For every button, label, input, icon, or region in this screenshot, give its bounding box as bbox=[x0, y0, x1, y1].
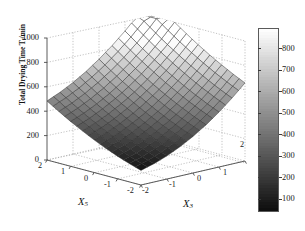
colorbar-mark-left-800 bbox=[258, 48, 261, 49]
x3-tick-neg2: -2 bbox=[142, 186, 149, 195]
colorbar-mark-200 bbox=[279, 177, 282, 178]
colorbar-tick-700: 700 bbox=[282, 65, 295, 74]
x3-tick-2: 2 bbox=[240, 140, 244, 149]
colorbar-mark-600 bbox=[279, 91, 282, 92]
x3-tick-neg1: -1 bbox=[169, 180, 176, 189]
x5-axis-name-sub: 5 bbox=[84, 200, 88, 208]
z-tick-600: 600 bbox=[13, 82, 39, 91]
colorbar-mark-800 bbox=[279, 48, 282, 49]
z-tick-400: 400 bbox=[13, 107, 39, 116]
x3-tick-0: 0 bbox=[197, 174, 201, 183]
colorbar-mark-100 bbox=[279, 199, 282, 200]
colorbar-mark-700 bbox=[279, 70, 282, 71]
z-tick-800: 800 bbox=[13, 58, 39, 67]
response-surface-mesh bbox=[47, 14, 245, 170]
colorbar-mark-left-400 bbox=[258, 134, 261, 135]
x5-tick-neg2: -2 bbox=[127, 186, 134, 195]
colorbar-mark-500 bbox=[279, 113, 282, 114]
z-tick-1000: 1000 bbox=[13, 33, 39, 42]
colorbar-tick-600: 600 bbox=[282, 87, 295, 96]
colorbar-tick-400: 400 bbox=[282, 130, 295, 139]
z-tick-0: 0 bbox=[13, 155, 39, 164]
x5-tick-1: 1 bbox=[61, 167, 65, 176]
colorbar-mark-left-100 bbox=[258, 199, 261, 200]
colorbar-tick-200: 200 bbox=[282, 173, 295, 182]
colorbar-tick-100: 100 bbox=[282, 194, 295, 203]
x3-tick-1: 1 bbox=[223, 168, 227, 177]
figure-canvas: Total Drying Time Tf/min 1000 800 600 40… bbox=[0, 0, 305, 231]
colorbar[interactable] bbox=[258, 28, 279, 212]
colorbar-mark-left-700 bbox=[258, 70, 261, 71]
colorbar-mark-400 bbox=[279, 134, 282, 135]
colorbar-mark-left-600 bbox=[258, 91, 261, 92]
x3-axis-name: X3 bbox=[183, 198, 193, 210]
colorbar-tick-500: 500 bbox=[282, 108, 295, 117]
colorbar-mark-300 bbox=[279, 156, 282, 157]
z-axis-label-main: Total Drying Time T bbox=[18, 40, 27, 105]
x5-axis-ticks bbox=[46, 160, 141, 188]
z-tick-200: 200 bbox=[13, 131, 39, 140]
colorbar-mark-left-200 bbox=[258, 177, 261, 178]
x5-tick-0: 0 bbox=[84, 174, 88, 183]
surface-facet bbox=[145, 14, 157, 17]
x3-axis-ticks bbox=[141, 161, 246, 188]
x5-tick-2: 2 bbox=[38, 161, 42, 170]
colorbar-tick-300: 300 bbox=[282, 151, 295, 160]
x5-axis-name: X5 bbox=[78, 196, 88, 208]
colorbar-segment bbox=[259, 208, 278, 211]
x5-tick-neg1: -1 bbox=[104, 180, 111, 189]
colorbar-mark-left-500 bbox=[258, 113, 261, 114]
x3-axis-name-sub: 3 bbox=[189, 202, 193, 210]
colorbar-tick-800: 800 bbox=[282, 44, 295, 53]
colorbar-mark-left-300 bbox=[258, 156, 261, 157]
